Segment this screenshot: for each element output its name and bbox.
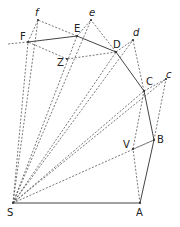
label-F: F	[20, 31, 26, 42]
point-labels: SABVCcDdEeFfZ	[7, 7, 172, 218]
label-E: E	[74, 23, 80, 34]
dashed-line-S-E	[13, 36, 77, 203]
point-B	[153, 139, 155, 141]
label-S: S	[7, 207, 13, 218]
point-Z	[66, 58, 68, 60]
label-c: c	[166, 69, 172, 80]
orbit-diagram: SABVCcDdEeFfZ	[0, 0, 180, 227]
label-D: D	[113, 39, 121, 50]
dashed-line-F-F_ext	[8, 42, 28, 44]
dashed-line-S-D	[13, 52, 116, 203]
dashed-line-A-V	[133, 149, 140, 203]
label-V: V	[123, 139, 130, 150]
edge-D-E	[77, 36, 116, 52]
edge-A-B	[140, 140, 154, 203]
dashed-line-S-F	[13, 42, 28, 203]
label-e: e	[89, 7, 95, 18]
point-V	[132, 148, 134, 150]
point-S	[12, 202, 14, 204]
point-E	[76, 35, 78, 37]
dashed-line-E-f	[38, 20, 77, 36]
label-f: f	[35, 7, 40, 18]
dashed-line-S-f	[13, 20, 38, 203]
point-d	[132, 39, 134, 41]
point-D	[115, 51, 117, 53]
point-f	[37, 19, 39, 21]
dashed-line-S-d	[13, 40, 133, 203]
edge-B-C	[144, 91, 154, 140]
vertex-points	[12, 19, 167, 204]
dashed-line-B-c	[154, 79, 166, 140]
point-e	[90, 19, 92, 21]
label-C: C	[146, 76, 153, 87]
dashed-line-D-Z	[67, 52, 116, 59]
point-C	[143, 90, 145, 92]
point-A	[139, 202, 141, 204]
label-B: B	[157, 134, 164, 145]
label-d: d	[133, 27, 140, 38]
label-A: A	[136, 207, 143, 218]
dashed-construction-lines	[8, 20, 166, 203]
label-Z: Z	[57, 57, 64, 68]
dashed-line-S-e	[13, 20, 91, 203]
dashed-line-V-C	[133, 91, 144, 149]
point-F	[27, 41, 29, 43]
polygon-edges	[13, 36, 154, 203]
